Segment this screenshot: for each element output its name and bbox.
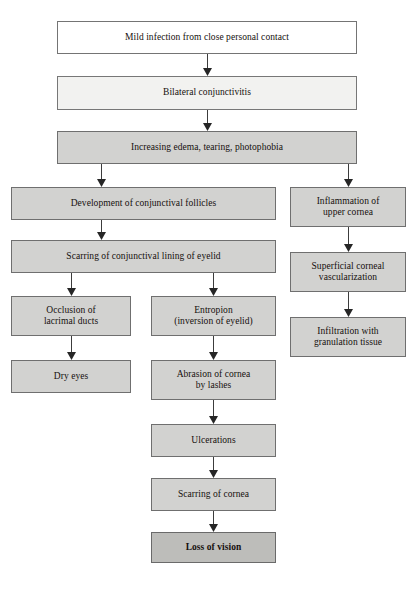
edge-scarring-lining-to-entropion [209, 273, 218, 296]
edge-increasing-edema-to-inflammation-upper-cornea [344, 164, 353, 187]
edge-scarring-cornea-to-loss-of-vision [209, 511, 218, 532]
connector-layer [0, 0, 418, 592]
edge-abrasion-to-ulcerations [209, 400, 218, 424]
edge-scarring-lining-to-occlusion [67, 273, 76, 296]
edge-inflammation-to-vascularization [344, 227, 353, 252]
edge-occlusion-to-dry-eyes [67, 336, 76, 360]
edge-entropion-to-abrasion [209, 336, 218, 360]
flowchart-canvas: Mild infection from close personal conta… [0, 0, 418, 592]
edge-conjunctival-follicles-to-scarring-lining [97, 220, 106, 240]
edge-bilateral-conjunctivitis-to-increasing-edema [203, 110, 212, 131]
edge-increasing-edema-to-conjunctival-follicles [97, 164, 106, 187]
edge-vascularization-to-infiltration [344, 292, 353, 317]
edge-mild-infection-to-bilateral-conjunctivitis [203, 54, 212, 76]
edge-ulcerations-to-scarring-cornea [209, 457, 218, 478]
